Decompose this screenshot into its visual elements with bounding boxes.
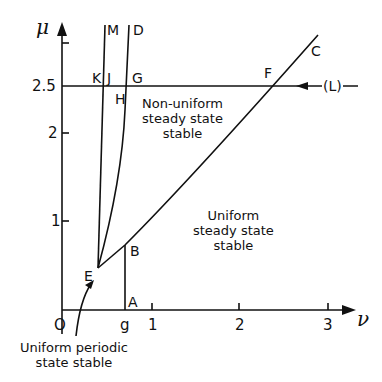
- curve-ED: [98, 25, 129, 268]
- line-L-arrow-icon: [296, 82, 308, 90]
- point-label-B: B: [130, 244, 140, 258]
- region-uniform-periodic: Uniform periodic state stable: [20, 340, 128, 370]
- y-tick-1: 1: [51, 214, 61, 229]
- x-axis-arrow-icon: [342, 305, 356, 315]
- line-EB: [98, 245, 125, 268]
- point-label-J: J: [107, 71, 111, 85]
- point-label-G: G: [132, 71, 143, 85]
- region-non-uniform-steady: Non-uniform steady state stable: [142, 96, 223, 141]
- point-label-C: C: [311, 44, 321, 58]
- x-tick-2: 2: [235, 318, 245, 333]
- x-tick-1: 1: [148, 318, 158, 333]
- line-label-L: (L): [322, 79, 343, 93]
- region-uniform-steady: Uniform steady state stable: [193, 208, 274, 253]
- point-label-M: M: [107, 23, 119, 37]
- x-tick-origin: O: [54, 318, 66, 333]
- point-label-E: E: [84, 269, 93, 283]
- point-label-F: F: [264, 66, 272, 80]
- x-tick-3: 3: [323, 318, 333, 333]
- x-axis-label: ν: [357, 309, 369, 329]
- y-tick-2: 2: [48, 126, 58, 141]
- y-axis-arrow-icon: [57, 22, 67, 36]
- line-EM: [98, 25, 105, 268]
- point-label-K: K: [92, 71, 101, 85]
- x-tick-g: g: [120, 318, 130, 333]
- point-label-A: A: [128, 295, 138, 309]
- stability-diagram: μ ν 2.5 2 1 O g 1 2 3 M D K J G H F C B …: [0, 0, 382, 382]
- point-label-H: H: [115, 92, 126, 106]
- point-label-D: D: [133, 23, 144, 37]
- y-tick-2-5: 2.5: [32, 79, 56, 94]
- y-axis-label: μ: [36, 17, 49, 37]
